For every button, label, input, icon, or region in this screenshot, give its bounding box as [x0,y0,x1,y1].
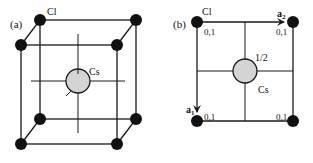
panel-b-label: (b) [173,18,186,31]
cl-atom [287,16,299,28]
cl-atom [111,39,123,51]
cl-label-a: Cl [47,6,57,17]
cl-atom [15,39,27,51]
cl-atom [34,113,46,125]
height-label-top-left: 0,1 [204,27,215,37]
cl-atom [111,138,123,150]
cs-label-b: Cs [258,84,269,95]
cl-atom [34,14,46,26]
vector-a2-label: a2 [277,8,286,21]
cl-atom [15,138,27,150]
back-face [40,20,136,119]
panel-a-label: (a) [10,18,23,31]
cs-label-a: Cs [89,66,100,77]
cl-atom [130,113,142,125]
height-label-top-right: 0,1 [276,27,287,37]
cl-label-b: Cl [202,6,212,17]
height-label-bottom-right: 0,1 [276,112,287,122]
cscl-structure-diagram: (a) Cl Cs (b) Cl 0,1 0,1 0,1 0,1 1/2 Cs … [0,0,313,163]
front-face [21,45,117,144]
cl-atom [191,16,203,28]
vector-a1-label: a1 [186,104,195,117]
cl-atom [130,14,142,26]
cl-atom [287,115,299,127]
cs-atom-b [233,59,257,83]
height-label-bottom-left: 0,1 [204,112,215,122]
cs-height-label: 1/2 [255,52,268,63]
